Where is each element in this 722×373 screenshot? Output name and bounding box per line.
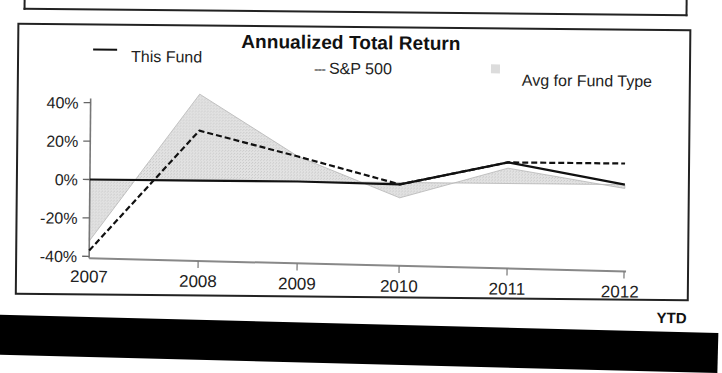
- chart-frame: Annualized Total Return This Fund ---S&P…: [15, 23, 692, 301]
- x-tick-label: 2008: [179, 272, 217, 291]
- x-axis-ytd-label: YTD: [657, 309, 687, 326]
- y-tick-label: 0%: [55, 171, 78, 188]
- axes: [82, 98, 628, 278]
- x-tick-label: 2012: [601, 282, 639, 299]
- x-tick-label: 2011: [488, 279, 525, 298]
- tick-labels: 40%20%0%-20%-40%200720082009201020112012: [39, 94, 640, 299]
- scanned-page: Annualized Total Return This Fund ---S&P…: [0, 0, 705, 347]
- plot-area: 40%20%0%-20%-40%200720082009201020112012: [17, 25, 690, 299]
- black-bottom-edge: [0, 315, 718, 373]
- x-tick-label: 2009: [278, 274, 316, 293]
- x-tick-label: 2007: [70, 267, 108, 286]
- y-tick-label: -20%: [40, 209, 78, 226]
- upper-section-box: [24, 0, 688, 16]
- y-tick-label: 40%: [47, 94, 79, 111]
- y-tick-label: -40%: [40, 248, 78, 265]
- y-tick-label: 20%: [46, 133, 78, 150]
- x-tick-label: 2010: [380, 277, 418, 296]
